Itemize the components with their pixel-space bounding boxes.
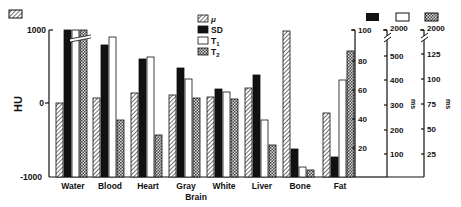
- t2-tick-125: 125: [427, 50, 441, 59]
- category-label-liver: Liver: [252, 181, 273, 191]
- sd-tick-60: 60: [358, 86, 367, 95]
- y-axis-label: HU: [12, 96, 24, 112]
- bar-water-mu: [56, 103, 63, 177]
- legend: μ SD T1 T2: [198, 15, 223, 58]
- t1-tick-200: 200: [390, 126, 404, 135]
- bar-blood-mu: [93, 98, 100, 177]
- category-label-white: White: [212, 181, 235, 191]
- bar-gray-sd: [177, 68, 184, 177]
- brain-label: Brain: [185, 192, 207, 202]
- bar-bone-t2: [307, 170, 314, 177]
- bar-liver-t1: [261, 120, 268, 177]
- tick-0: 0: [39, 98, 44, 108]
- legend-sd-label: SD: [211, 25, 223, 35]
- bar-water-t1: [72, 30, 79, 177]
- bar-liver-t2: [269, 145, 276, 177]
- category-label-gray: Gray: [176, 181, 196, 191]
- bar-white-mu: [207, 97, 214, 177]
- t2-axis-swatch: [425, 13, 438, 21]
- tick-1000: 1000: [27, 25, 46, 35]
- t2-tick-50: 50: [427, 125, 436, 134]
- t2-tick-75: 75: [427, 100, 436, 109]
- category-labels: WaterBloodHeartGrayWhiteLiverBoneFat: [61, 181, 346, 191]
- right-axis-sd: 10080604020: [351, 13, 379, 177]
- legend-t2-swatch: [198, 48, 208, 55]
- bar-white-sd: [215, 89, 222, 177]
- bar-fat-t2: [347, 51, 354, 177]
- legend-t1-label: T1: [211, 36, 220, 47]
- category-label-water: Water: [61, 181, 85, 191]
- bar-blood-t2: [117, 120, 124, 177]
- tick-minus-1000: -1000: [20, 172, 42, 182]
- bar-fat-mu: [323, 113, 330, 177]
- bar-blood-sd: [101, 45, 108, 177]
- legend-mu-label: μ: [210, 15, 216, 24]
- legend-t1-swatch: [198, 37, 208, 44]
- bar-liver-sd: [253, 75, 260, 177]
- category-label-blood: Blood: [98, 181, 122, 191]
- t2-tick-100: 100: [427, 75, 441, 84]
- bar-gray-t1: [185, 79, 192, 177]
- sd-tick-100: 100: [358, 26, 372, 35]
- legend-sd-swatch: [198, 26, 208, 33]
- category-label-fat: Fat: [334, 181, 347, 191]
- bar-water-t2: [80, 30, 87, 177]
- sd-axis-swatch: [366, 13, 379, 21]
- chart-container: 1000 0 -1000 HU WaterBloodHeartGrayWhite…: [0, 0, 461, 207]
- bar-bone-t1: [299, 167, 306, 177]
- bar-water-sd: [64, 30, 71, 177]
- sd-tick-20: 20: [358, 144, 367, 153]
- bar-chart: 1000 0 -1000 HU WaterBloodHeartGrayWhite…: [0, 0, 461, 207]
- bar-heart-t2: [155, 135, 162, 177]
- bar-heart-mu: [131, 93, 138, 177]
- legend-mu-swatch: [198, 15, 208, 22]
- mu-axis-swatch: [9, 10, 22, 18]
- bar-white-t2: [231, 99, 238, 177]
- sd-tick-80: 80: [358, 57, 367, 66]
- t1-ms-label: ms: [410, 99, 417, 109]
- bar-white-t1: [223, 92, 230, 177]
- t1-tick-300: 300: [390, 101, 404, 110]
- t1-tick-400: 400: [390, 76, 404, 85]
- bar-fat-sd: [331, 157, 338, 177]
- t1-tick-2000: 2000: [390, 24, 408, 33]
- t1-tick-500: 500: [390, 52, 404, 61]
- bar-blood-t1: [109, 37, 116, 177]
- t2-tick-25: 25: [427, 150, 436, 159]
- bar-fat-t1: [339, 80, 346, 177]
- t1-tick-100: 100: [390, 150, 404, 159]
- t1-axis-swatch: [396, 13, 409, 21]
- t2-ms-label: ms: [445, 99, 452, 109]
- category-label-heart: Heart: [137, 181, 159, 191]
- bar-gray-t2: [193, 98, 200, 177]
- sd-tick-40: 40: [358, 115, 367, 124]
- bar-bone-sd: [291, 149, 298, 177]
- bar-bone-mu: [283, 31, 290, 177]
- bar-heart-sd: [139, 59, 146, 177]
- bar-liver-mu: [245, 88, 252, 177]
- category-label-bone: Bone: [289, 181, 311, 191]
- bar-gray-mu: [169, 95, 176, 177]
- bar-heart-t1: [147, 57, 154, 177]
- t2-tick-2000: 2000: [427, 24, 445, 33]
- legend-t2-label: T2: [211, 47, 220, 58]
